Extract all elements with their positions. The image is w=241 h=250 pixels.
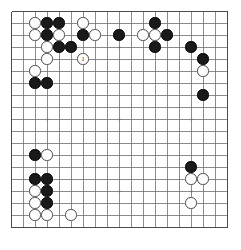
black-stone[interactable]	[41, 185, 52, 196]
black-stone[interactable]	[185, 41, 196, 52]
black-stone[interactable]	[149, 17, 160, 28]
star-point	[118, 190, 120, 192]
black-stone[interactable]	[161, 29, 172, 40]
white-stone[interactable]	[29, 209, 40, 220]
white-stone[interactable]	[29, 29, 40, 40]
board-surface[interactable]: 1	[0, 0, 241, 250]
white-stone[interactable]	[29, 65, 40, 76]
black-stone[interactable]	[185, 161, 196, 172]
black-stone[interactable]	[53, 41, 64, 52]
white-stone[interactable]	[197, 65, 208, 76]
black-stone[interactable]	[29, 173, 40, 184]
black-stone[interactable]	[149, 41, 160, 52]
white-stone[interactable]	[89, 29, 100, 40]
white-stone[interactable]	[185, 197, 196, 208]
white-stone[interactable]	[77, 17, 88, 28]
white-stone[interactable]	[29, 17, 40, 28]
star-point	[118, 46, 120, 48]
black-stone[interactable]	[41, 29, 52, 40]
white-stone[interactable]	[41, 41, 52, 52]
black-stone[interactable]	[41, 173, 52, 184]
star-point	[118, 118, 120, 120]
black-stone[interactable]	[77, 29, 88, 40]
white-stone[interactable]	[53, 29, 64, 40]
star-point	[190, 190, 192, 192]
black-stone[interactable]	[29, 77, 40, 88]
black-stone[interactable]	[41, 197, 52, 208]
white-stone[interactable]	[29, 197, 40, 208]
black-stone[interactable]	[197, 53, 208, 64]
star-point	[46, 118, 48, 120]
black-stone[interactable]	[29, 149, 40, 160]
white-stone[interactable]: 1	[77, 53, 88, 64]
white-stone[interactable]	[149, 29, 160, 40]
black-stone[interactable]	[41, 77, 52, 88]
black-stone[interactable]	[197, 89, 208, 100]
white-stone[interactable]	[197, 173, 208, 184]
black-stone[interactable]	[41, 17, 52, 28]
white-stone[interactable]	[41, 53, 52, 64]
move-number-label: 1	[78, 54, 87, 63]
black-stone[interactable]	[53, 17, 64, 28]
star-point	[190, 118, 192, 120]
go-board-diagram: 1	[0, 0, 241, 250]
white-stone[interactable]	[137, 29, 148, 40]
white-stone[interactable]	[41, 149, 52, 160]
black-stone[interactable]	[65, 41, 76, 52]
white-stone[interactable]	[65, 209, 76, 220]
white-stone[interactable]	[41, 209, 52, 220]
black-stone[interactable]	[113, 29, 124, 40]
white-stone[interactable]	[185, 173, 196, 184]
white-stone[interactable]	[29, 185, 40, 196]
